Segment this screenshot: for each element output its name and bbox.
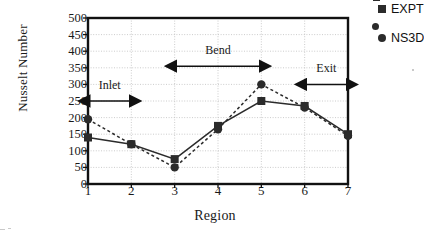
annotation-label: Bend — [205, 43, 230, 58]
legend-marker-circle-icon — [378, 34, 386, 42]
data-point-ns3d — [170, 163, 178, 171]
legend-item-ns3d[interactable]: NS3D — [378, 31, 424, 45]
chart-figure: Nusselt Number 0501001502002503003504004… — [0, 0, 424, 235]
data-point-expt — [171, 155, 179, 163]
data-point-ns3d — [84, 115, 92, 123]
data-point-ns3d — [214, 125, 222, 133]
data-point-ns3d — [344, 132, 352, 140]
data-point-ns3d — [127, 140, 135, 148]
plot-area — [0, 0, 424, 235]
annotation-label: Inlet — [99, 78, 121, 93]
data-point-expt — [257, 97, 265, 105]
data-point-ns3d — [257, 80, 265, 88]
legend-item-expt[interactable]: EXPT — [378, 2, 424, 16]
legend-stray-marker-circle — [372, 23, 379, 30]
scan-speckle — [8, 228, 11, 229]
legend-label: NS3D — [391, 31, 424, 45]
legend-stray-marker-square — [373, 0, 380, 1]
legend-marker-square-icon — [378, 5, 386, 13]
scan-speckle — [412, 69, 414, 71]
annotation-label: Exit — [316, 61, 336, 76]
data-point-expt — [84, 134, 92, 142]
scan-speckle — [0, 229, 5, 230]
legend-label: EXPT — [391, 2, 424, 16]
data-point-ns3d — [300, 103, 308, 111]
